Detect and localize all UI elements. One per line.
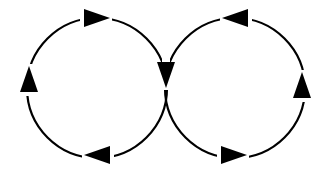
figure-eight-diagram	[0, 0, 327, 177]
center-crossing-arrow-icon	[157, 58, 175, 90]
arrows	[20, 9, 311, 164]
left-bottom-arrow-icon	[82, 146, 114, 164]
right-top-arrow-icon	[220, 9, 252, 27]
left-loop	[27, 18, 167, 158]
right-side-arrow-icon	[293, 70, 311, 102]
right-loop	[165, 18, 305, 158]
right-bottom-arrow-icon	[217, 146, 249, 164]
left-top-arrow-icon	[80, 9, 112, 27]
left-side-arrow-icon	[20, 64, 38, 96]
